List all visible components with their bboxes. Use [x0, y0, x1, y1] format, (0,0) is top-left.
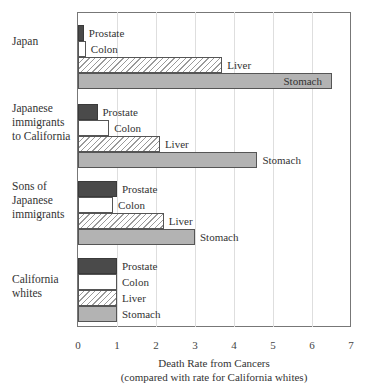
bar-label-stomach: Stomach — [122, 306, 161, 322]
bar-label-prostate: Prostate — [122, 258, 157, 274]
bar-prostate — [78, 25, 84, 41]
category-label: Sons ofJapaneseimmigrants — [12, 179, 64, 221]
x-tick-label: 5 — [270, 339, 276, 351]
bar-liver — [78, 290, 117, 306]
bar-label-prostate: Prostate — [89, 25, 124, 41]
x-tick-label: 1 — [114, 339, 120, 351]
bar-prostate — [78, 258, 117, 274]
bar-liver — [78, 57, 222, 73]
x-tick-label: 3 — [192, 339, 198, 351]
category-label: Japaneseimmigrantsto California — [12, 101, 70, 143]
bar-stomach — [78, 152, 257, 168]
bar-label-prostate: Prostate — [122, 181, 157, 197]
bar-colon — [78, 41, 86, 57]
category-label: Californiawhites — [12, 272, 59, 300]
bar-label-colon: Colon — [114, 120, 141, 136]
bar-liver — [78, 213, 164, 229]
bar-prostate — [78, 181, 117, 197]
bar-colon — [78, 197, 113, 213]
x-axis-title: Death Rate from Cancers — [77, 356, 351, 370]
bar-label-stomach: Stomach — [262, 152, 301, 168]
x-tick-label: 0 — [75, 339, 81, 351]
bar-liver — [78, 136, 160, 152]
bar-stomach — [78, 229, 195, 245]
bar-prostate — [78, 104, 98, 120]
bar-label-colon: Colon — [122, 274, 149, 290]
cancer-death-rate-chart: JapanProstateColonLiverStomachJapaneseim… — [0, 0, 368, 388]
bar-label-stomach: Stomach — [200, 229, 239, 245]
bar-colon — [78, 274, 117, 290]
bar-label-liver: Liver — [122, 290, 146, 306]
bar-label-liver: Liver — [165, 136, 189, 152]
bar-label-liver: Liver — [227, 57, 251, 73]
bar-label-liver: Liver — [169, 213, 193, 229]
x-tick-label: 2 — [153, 339, 159, 351]
gridline — [273, 12, 274, 327]
category-label: Japan — [12, 34, 38, 48]
bar-label-prostate: Prostate — [103, 104, 138, 120]
x-tick-label: 6 — [309, 339, 315, 351]
bar-stomach — [78, 306, 117, 322]
x-tick-label: 7 — [348, 339, 354, 351]
bar-label-colon: Colon — [118, 197, 145, 213]
bar-label-colon: Colon — [91, 41, 118, 57]
bar-label-stomach: Stomach — [284, 73, 323, 89]
x-tick-label: 4 — [231, 339, 237, 351]
bar-colon — [78, 120, 109, 136]
x-axis-subtitle: (compared with rate for California white… — [77, 370, 351, 384]
gridline — [312, 12, 313, 327]
